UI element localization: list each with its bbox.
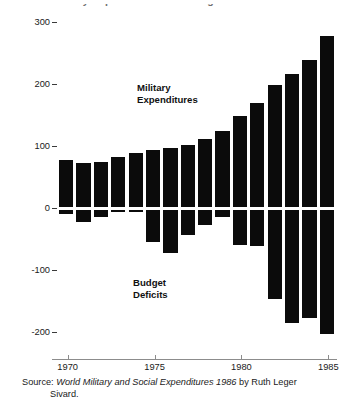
bar-military-1970: [59, 160, 73, 207]
bar-deficit-1983: [285, 210, 299, 323]
source-line2: Sivard.: [50, 389, 342, 401]
bar-military-1978: [198, 139, 212, 207]
y-tick-mark-neg100: [52, 270, 57, 271]
source-prefix: Source:: [22, 377, 56, 387]
bar-deficit-1976: [163, 210, 177, 253]
bar-military-1972: [94, 162, 108, 208]
x-tick-label-1975: 1975: [144, 362, 165, 372]
y-tick-label-100: 100: [0, 141, 50, 151]
y-tick-mark-100: [52, 146, 57, 147]
bar-military-1985: [320, 36, 334, 207]
bar-deficit-1984: [302, 210, 316, 318]
bar-deficit-1974: [129, 210, 143, 212]
bar-military-1976: [163, 148, 177, 207]
bar-military-1983: [285, 74, 299, 207]
bar-deficit-1971: [76, 210, 90, 222]
bar-military-1971: [76, 163, 90, 207]
bar-military-1979: [215, 131, 229, 207]
annotation-deficits-line1: Budget: [133, 277, 166, 288]
chart-title: U.S. Military Expenditures and Budget De…: [26, 0, 266, 6]
x-tick-label-1985: 1985: [318, 362, 339, 372]
bar-deficit-1980: [233, 210, 247, 245]
bar-military-1982: [268, 85, 282, 207]
x-tick-mark-1975: [155, 355, 156, 360]
source-work-title: World Military and Social Expenditures 1…: [56, 377, 236, 387]
x-tick-mark-1985: [328, 355, 329, 360]
bar-deficit-1978: [198, 210, 212, 225]
annotation-budget-deficits: Budget Deficits: [133, 277, 168, 300]
bar-deficit-1977: [181, 210, 195, 235]
annotation-military-expenditures: Military Expenditures: [137, 82, 198, 105]
source-note: Source: World Military and Social Expend…: [22, 377, 342, 400]
x-tick-mark-1970: [68, 355, 69, 360]
x-tick-mark-1980: [241, 355, 242, 360]
y-tick-label-neg200: -200: [0, 327, 50, 337]
y-tick-label-200: 200: [0, 79, 50, 89]
bar-military-1973: [111, 157, 125, 207]
bar-military-1977: [181, 145, 195, 207]
y-tick-label-neg100: -100: [0, 265, 50, 275]
plot-area: [59, 15, 337, 355]
bar-military-1975: [146, 150, 160, 207]
bar-deficit-1973: [111, 210, 125, 212]
y-tick-label-0: 0: [0, 203, 50, 213]
y-tick-mark-200: [52, 84, 57, 85]
bar-deficit-1981: [250, 210, 264, 246]
bar-military-1980: [233, 116, 247, 207]
bar-deficit-1982: [268, 210, 282, 299]
chart-figure: U.S. Military Expenditures and Budget De…: [0, 0, 352, 408]
bar-military-1974: [129, 153, 143, 207]
bar-deficit-1970: [59, 210, 73, 214]
x-axis-line: [52, 359, 337, 360]
source-suffix: by Ruth Leger: [236, 377, 296, 387]
y-tick-mark-0: [52, 208, 57, 209]
y-tick-label-300: 300: [0, 17, 50, 27]
bar-military-1981: [250, 103, 264, 207]
x-tick-label-1980: 1980: [231, 362, 252, 372]
annotation-military-line2: Expenditures: [137, 94, 198, 105]
annotation-military-line1: Military: [137, 82, 171, 93]
bar-deficit-1972: [94, 210, 108, 217]
bar-military-1984: [302, 60, 316, 207]
annotation-deficits-line2: Deficits: [133, 289, 168, 300]
x-tick-label-1970: 1970: [57, 362, 78, 372]
bar-deficit-1985: [320, 210, 334, 334]
y-tick-mark-300: [52, 22, 57, 23]
bar-deficit-1979: [215, 210, 229, 217]
bar-deficit-1975: [146, 210, 160, 242]
y-tick-mark-neg200: [52, 332, 57, 333]
